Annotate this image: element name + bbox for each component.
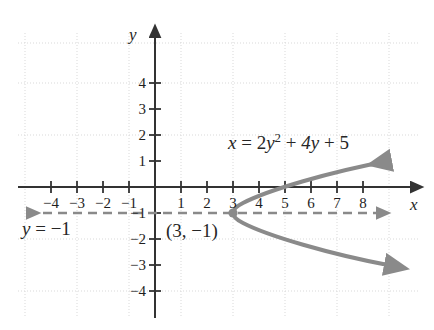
y-tick-label--3: −3 — [122, 258, 146, 273]
grid-lines — [18, 33, 420, 318]
y-tick-label--2: −2 — [122, 232, 146, 247]
equation-equals: = — [241, 132, 252, 153]
x-tick-label-6: 6 — [303, 196, 319, 211]
symmetry-line-label: y = −1 — [22, 219, 71, 238]
y-tick-label-1: 1 — [128, 154, 146, 169]
x-tick-label--3: −3 — [67, 196, 87, 211]
vertex-point-label: (3, −1) — [166, 221, 218, 240]
equation-plus-1: + — [286, 132, 297, 153]
y-tick-label--4: −4 — [122, 284, 146, 299]
x-tick-label-7: 7 — [329, 196, 345, 211]
x-tick-label--4: −4 — [41, 196, 61, 211]
x-tick-label-2: 2 — [199, 196, 215, 211]
x-tick-label--2: −2 — [93, 196, 113, 211]
equation-plus-2: + — [324, 132, 335, 153]
y-tick-label-2: 2 — [128, 128, 146, 143]
equation-variable: y — [266, 132, 274, 153]
symmetry-rhs: −1 — [51, 218, 71, 239]
equation-coefficient: 2 — [257, 132, 267, 153]
x-tick-label-5: 5 — [277, 196, 293, 211]
symmetry-equals: = — [35, 218, 46, 239]
x-axis-name: x — [410, 196, 418, 213]
y-axis-name: y — [129, 26, 137, 43]
coordinate-plane — [0, 0, 434, 330]
graph-figure: −4 −3 −2 −1 1 2 3 4 5 6 7 8 4 3 2 1 −1 −… — [0, 0, 434, 330]
x-tick-label-3: 3 — [225, 196, 241, 211]
x-tick-label-8: 8 — [355, 196, 371, 211]
equation-term-2: 4y — [301, 132, 319, 153]
y-tick-label-4: 4 — [128, 76, 146, 91]
y-tick-label-3: 3 — [128, 102, 146, 117]
equation-label: x = 2y2 + 4y + 5 — [228, 133, 349, 152]
x-tick-label-4: 4 — [251, 196, 267, 211]
x-tick-label-1: 1 — [173, 196, 189, 211]
y-tick-label--1: −1 — [122, 206, 146, 221]
equation-constant: 5 — [339, 132, 349, 153]
